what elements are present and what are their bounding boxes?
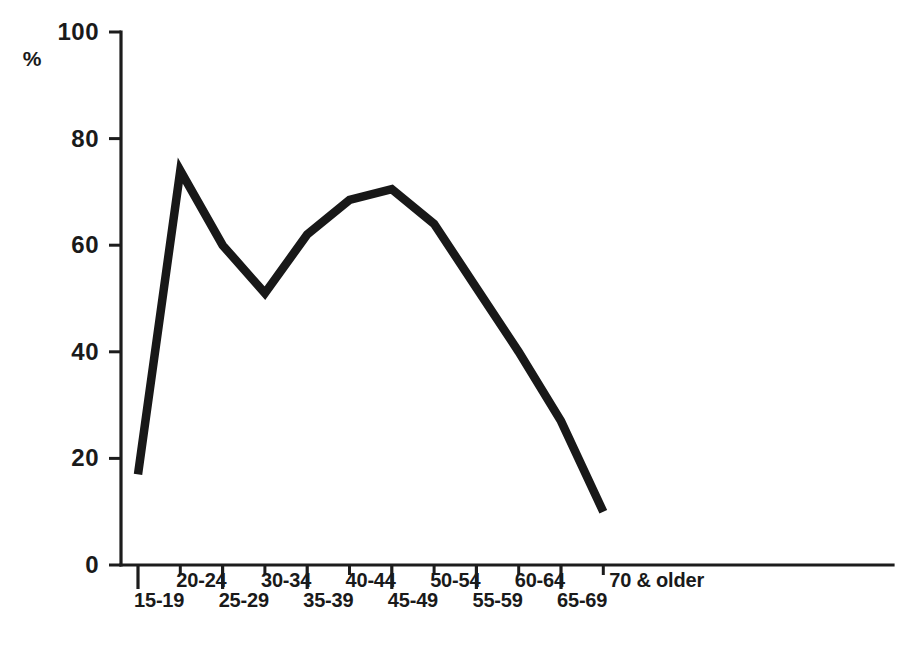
x-tick-label: 20-24 xyxy=(176,569,227,591)
x-tick-label: 30-34 xyxy=(261,569,312,591)
y-tick-labels: 020406080100 xyxy=(57,18,99,578)
x-tick-label: 65-69 xyxy=(557,589,607,611)
x-tick-label: 50-54 xyxy=(430,569,481,591)
chart-container: 020406080100 15-1920-2425-2930-3435-3940… xyxy=(0,0,916,647)
data-series-line xyxy=(138,171,603,512)
x-tick-label: 25-29 xyxy=(219,589,269,611)
y-tick-label: 40 xyxy=(71,338,99,365)
y-tick-label: 100 xyxy=(57,18,99,45)
x-tick-label: 40-44 xyxy=(346,569,397,591)
x-tick-label: 70 & older xyxy=(609,569,704,591)
y-tick-label: 60 xyxy=(71,231,99,258)
x-tick-label: 35-39 xyxy=(303,589,353,611)
x-tick-label: 45-49 xyxy=(388,589,438,611)
x-tick-label: 15-19 xyxy=(134,589,184,611)
y-axis-unit-label: % xyxy=(23,47,42,70)
y-tick-label: 80 xyxy=(71,125,99,152)
x-tick-label: 60-64 xyxy=(515,569,566,591)
y-tick-marks xyxy=(109,32,121,565)
line-chart: 020406080100 15-1920-2425-2930-3435-3940… xyxy=(0,0,916,647)
x-tick-labels: 15-1920-2425-2930-3435-3940-4445-4950-54… xyxy=(134,569,704,611)
y-tick-label: 20 xyxy=(71,444,99,471)
x-tick-label: 55-59 xyxy=(472,589,522,611)
y-tick-label: 0 xyxy=(85,551,99,578)
